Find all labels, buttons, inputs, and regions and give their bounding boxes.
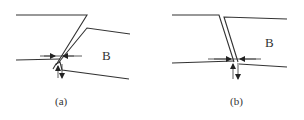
lower-left-edge	[16, 59, 60, 60]
caption-b: (b)	[230, 96, 243, 107]
upper-left-block-edge	[172, 15, 234, 62]
lower-right-edge	[239, 64, 287, 67]
region-label-b: B	[265, 36, 274, 49]
panel-a-drawing	[16, 15, 130, 79]
upper-left-block-edge	[16, 15, 87, 65]
region-label-a: B	[102, 49, 111, 62]
upper-right-block-edge	[224, 17, 287, 62]
diagram-canvas	[0, 0, 304, 120]
caption-a: (a)	[55, 96, 67, 107]
lower-left-edge	[172, 61, 234, 63]
lower-right-edge	[53, 62, 129, 79]
upper-right-block-edge	[59, 28, 130, 62]
